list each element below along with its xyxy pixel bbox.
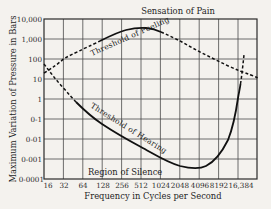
svg-text:100: 100 <box>28 55 42 64</box>
svg-text:1,000: 1,000 <box>21 35 42 44</box>
svg-text:4096: 4096 <box>191 181 210 190</box>
svg-text:16: 16 <box>43 181 53 190</box>
svg-text:64: 64 <box>78 181 88 190</box>
svg-text:256: 256 <box>115 181 129 190</box>
svg-text:1024: 1024 <box>152 181 171 190</box>
grid <box>44 19 257 179</box>
svg-text:16,384: 16,384 <box>228 181 254 190</box>
svg-text:10: 10 <box>33 75 43 84</box>
threshold-of-feeling-label: Threshold of Feeling <box>89 15 171 58</box>
svg-text:0-01: 0-01 <box>26 135 42 144</box>
threshold-of-hearing-label: Threshold of Hearing <box>89 101 169 155</box>
svg-text:8192: 8192 <box>210 181 228 190</box>
hearing-threshold-chart: Sensation of Pain Threshold of Feeling T… <box>0 0 271 209</box>
svg-text:2048: 2048 <box>171 181 190 190</box>
y-axis-ticks: 10,000 1,000 100 10 1 0-1 0-01 0-001 0-0… <box>17 15 44 184</box>
svg-text:0-001: 0-001 <box>21 155 42 164</box>
svg-text:32: 32 <box>59 181 68 190</box>
svg-text:512: 512 <box>134 181 148 190</box>
x-axis-ticks: 16 32 64 128 256 512 1024 2048 4096 8192… <box>43 181 254 190</box>
svg-text:0-1: 0-1 <box>30 115 42 124</box>
threshold-of-hearing-curve <box>44 55 244 168</box>
x-axis-label: Frequency in Cycles per Second <box>84 191 222 201</box>
svg-text:10,000: 10,000 <box>17 15 43 24</box>
y-axis-label: Maximum Variation of Pressure in Bars <box>8 15 18 182</box>
threshold-of-feeling-curve <box>44 28 258 78</box>
chart-title: Sensation of Pain <box>141 6 215 16</box>
svg-text:1: 1 <box>37 95 42 104</box>
svg-text:0-0001: 0-0001 <box>19 175 44 184</box>
region-of-silence-label: Region of Silence <box>88 167 162 177</box>
svg-text:128: 128 <box>96 181 110 190</box>
